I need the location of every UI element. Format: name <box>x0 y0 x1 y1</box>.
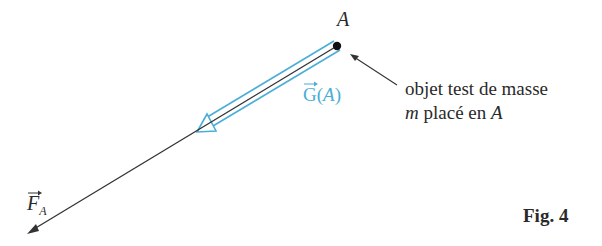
field-vector-label: G (A) <box>303 84 341 106</box>
force-vector-label: F A <box>27 192 47 219</box>
annotation-text: objet test de masse m placé en A <box>405 77 548 125</box>
point-a-label: A <box>337 8 349 31</box>
force-vector-f <box>27 46 337 234</box>
point-a <box>333 42 341 50</box>
figure-caption: Fig. 4 <box>523 205 568 227</box>
arrowhead-icon <box>27 224 39 234</box>
annotation-pointer <box>350 54 397 85</box>
vector-g: G <box>303 84 317 106</box>
vector-f: F <box>27 192 39 215</box>
